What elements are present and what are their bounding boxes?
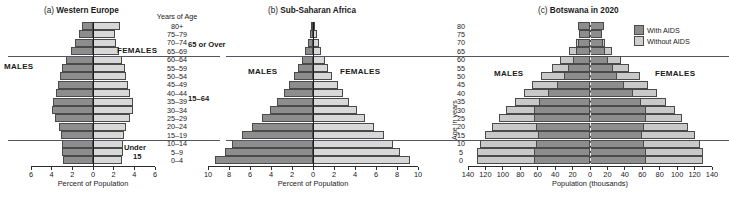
bar-male-a-8 xyxy=(56,89,93,97)
bar-male-c-9 xyxy=(539,98,590,106)
age-column-header: Years of Age xyxy=(146,12,208,21)
bar-male-c-11 xyxy=(534,114,590,122)
bar-male-b-5 xyxy=(298,64,313,72)
bar-male-a-13 xyxy=(61,131,93,139)
axis-title-b: Percent of Population xyxy=(258,179,368,188)
bar-male-a-9 xyxy=(53,98,93,106)
bar-female-b-5 xyxy=(313,64,328,72)
axis-tick-label-a-2: 2 xyxy=(62,170,82,179)
legend-label-0: With AIDS xyxy=(647,26,680,35)
axis-tick-label-b-8: 6 xyxy=(366,170,386,179)
bar-female-b-12 xyxy=(313,123,374,131)
bar-female-a-5 xyxy=(93,64,125,72)
bar-female-c-5 xyxy=(590,64,613,72)
bar-male-c-1 xyxy=(579,30,590,38)
bar-female-a-13 xyxy=(93,131,124,139)
axis-tick-label-b-2: 6 xyxy=(240,170,260,179)
bar-male-c-12 xyxy=(536,123,590,131)
males-label-a: MALES xyxy=(4,62,34,71)
bar-male-a-15 xyxy=(62,148,93,156)
bar-male-b-16 xyxy=(215,156,313,164)
bar-male-a-1 xyxy=(79,30,93,38)
axis-tick-label-b-7: 4 xyxy=(345,170,365,179)
bar-female-c-0 xyxy=(590,22,604,30)
bar-male-b-8 xyxy=(284,89,313,97)
bar-male-a-2 xyxy=(75,39,93,47)
bar-male-c-14 xyxy=(536,140,590,148)
bar-female-b-6 xyxy=(313,72,332,80)
bar-female-a-6 xyxy=(93,72,126,80)
axis-tick-label-b-6: 2 xyxy=(324,170,344,179)
panel-title-c: (c) Botswana in 2020 xyxy=(538,6,619,15)
bar-female-c-8 xyxy=(590,89,633,97)
axis-tick-label-b-1: 8 xyxy=(219,170,239,179)
axis-tick-label-b-0: 10 xyxy=(198,170,218,179)
axis-tick-label-a-1: 4 xyxy=(42,170,62,179)
bar-male-c-2 xyxy=(578,39,590,47)
legend-swatch-0 xyxy=(634,25,644,35)
population-pyramid-figure: (a) Western Europe(b) Sub-Saharan Africa… xyxy=(0,0,729,201)
bar-male-c-3 xyxy=(576,47,590,55)
bar-female-c-3 xyxy=(590,47,605,55)
bar-male-c-7 xyxy=(557,81,590,89)
bar-female-a-1 xyxy=(93,30,115,38)
bar-female-c-15 xyxy=(590,148,646,156)
legend-label-1: Without AIDS xyxy=(647,37,690,46)
bar-female-b-7 xyxy=(313,81,338,89)
panel-title-text-b: Sub-Saharan Africa xyxy=(280,6,356,15)
legend-swatch-1 xyxy=(634,36,644,46)
axis-tick-label-c-14: 140 xyxy=(702,170,722,179)
axis-tick-label-a-4: 2 xyxy=(104,170,124,179)
bar-female-c-10 xyxy=(590,106,646,114)
females-label-a: FEMALES xyxy=(117,46,157,55)
bar-female-a-0 xyxy=(93,22,120,30)
bar-female-a-9 xyxy=(93,98,133,106)
axis-tick-label-b-9: 8 xyxy=(387,170,407,179)
axis-title-c: Population (thousands) xyxy=(535,179,645,188)
bar-male-c-6 xyxy=(564,72,590,80)
males-label-b: MALES xyxy=(248,67,278,76)
group-label-under15-line1: Under xyxy=(124,143,146,152)
bar-female-c-1 xyxy=(590,30,602,38)
bar-male-a-11 xyxy=(55,114,93,122)
bar-female-b-8 xyxy=(313,89,343,97)
bar-female-c-6 xyxy=(590,72,617,80)
bar-female-b-15 xyxy=(313,148,400,156)
bar-male-c-0 xyxy=(578,22,590,30)
group-label-over65: 65 or Over xyxy=(188,40,226,49)
age-axis-title: Age in years xyxy=(450,100,459,140)
panel-title-prefix-c: (c) xyxy=(538,6,550,15)
bar-male-b-3 xyxy=(305,47,313,55)
group-label-working: 15–64 xyxy=(188,94,209,103)
center-line-b xyxy=(313,22,314,166)
panel-title-prefix-a: (a) xyxy=(44,6,56,15)
bar-female-c-12 xyxy=(590,123,644,131)
group-label-under15-line2: 15 xyxy=(133,152,141,161)
axis-tick-label-b-3: 4 xyxy=(261,170,281,179)
axis-title-a: Percent of Population xyxy=(38,179,148,188)
bar-female-a-10 xyxy=(93,106,133,114)
age-group-label-16: 0–4 xyxy=(146,156,208,165)
axis-tick-label-b-4: 2 xyxy=(282,170,302,179)
bar-female-b-13 xyxy=(313,131,384,139)
bar-female-c-7 xyxy=(590,81,624,89)
bar-male-a-6 xyxy=(60,72,93,80)
males-label-c: MALES xyxy=(494,69,524,78)
bar-female-a-14 xyxy=(93,140,123,148)
bar-male-b-14 xyxy=(232,140,313,148)
bar-male-b-9 xyxy=(277,98,313,106)
females-label-b: FEMALES xyxy=(340,67,380,76)
bar-female-a-7 xyxy=(93,81,128,89)
bar-female-c-4 xyxy=(590,56,608,64)
panel-title-b: (b) Sub-Saharan Africa xyxy=(268,6,356,15)
bar-female-a-8 xyxy=(93,89,130,97)
bar-female-c-14 xyxy=(590,140,644,148)
panel-title-text-a: Western Europe xyxy=(56,6,119,15)
bar-female-a-11 xyxy=(93,114,130,122)
bar-male-a-5 xyxy=(62,64,93,72)
bar-female-a-3 xyxy=(93,47,119,55)
panel-title-prefix-b: (b) xyxy=(268,6,280,15)
divider-65-left xyxy=(8,56,220,57)
bar-female-c-2 xyxy=(590,39,603,47)
females-label-c: FEMALES xyxy=(655,69,695,78)
